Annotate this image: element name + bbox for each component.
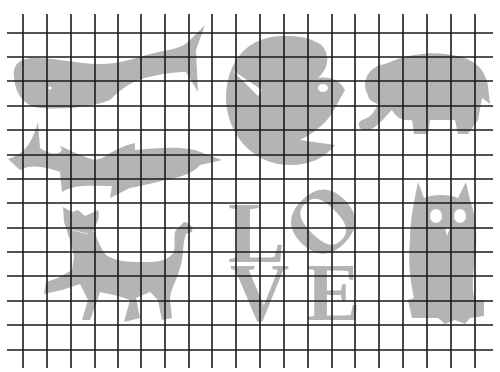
silhouettes: L O V E <box>8 25 490 338</box>
love-sculpture-silhouette: L O V E <box>228 161 382 338</box>
grid-silhouette-figure: L O V E <box>0 0 500 372</box>
bird-circle-silhouette <box>226 36 345 165</box>
whale-silhouette <box>14 25 205 109</box>
shark-silhouette <box>8 122 222 198</box>
